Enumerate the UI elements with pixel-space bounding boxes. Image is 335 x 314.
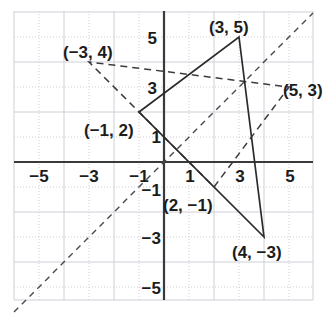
coordinate-plane-graph: −5 −3 −1 1 3 5 5 3 1 −1 −3 −5 (3, 5) (−3… (0, 0, 335, 314)
y-tick-label-1: 1 (152, 128, 161, 147)
point-label-4-neg3: (4, −3) (232, 243, 282, 262)
point-label-5-3: (5, 3) (283, 81, 323, 100)
point-label-3-5: (3, 5) (209, 18, 249, 37)
y-tick-label-neg1: −1 (142, 181, 161, 200)
x-tick-label-5: 5 (285, 167, 294, 186)
y-tick-label-neg3: −3 (142, 229, 161, 248)
point-label-2-neg1: (2, −1) (163, 196, 213, 215)
x-tick-label-neg3: −3 (79, 167, 98, 186)
point-label-neg1-2: (−1, 2) (84, 121, 134, 140)
y-tick-label-3: 3 (148, 79, 157, 98)
x-tick-label-1: 1 (185, 167, 194, 186)
x-tick-label-neg5: −5 (29, 167, 48, 186)
graph-svg: −5 −3 −1 1 3 5 5 3 1 −1 −3 −5 (3, 5) (−3… (0, 0, 335, 314)
x-tick-label-3: 3 (235, 167, 244, 186)
point-labels: (3, 5) (−3, 4) (5, 3) (−1, 2) (2, −1) (4… (63, 18, 323, 262)
point-label-neg3-4: (−3, 4) (63, 43, 113, 62)
y-tick-label-neg5: −5 (142, 279, 161, 298)
y-tick-label-5: 5 (148, 29, 157, 48)
